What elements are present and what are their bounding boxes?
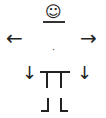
arrow-down-left-icon: ↓ <box>22 64 37 82</box>
table-leg-right <box>60 71 62 88</box>
smiley-face-icon: ☺ <box>45 4 62 20</box>
arrow-left-icon: ← <box>6 28 23 48</box>
arrow-right-icon: → <box>80 28 97 48</box>
table-top <box>40 71 70 73</box>
foot-left-icon <box>41 98 49 112</box>
arrow-down-right-icon: ↓ <box>77 64 92 82</box>
center-dot: · <box>52 46 55 55</box>
head-underline <box>43 21 65 23</box>
table-shape-icon <box>40 71 70 88</box>
table-leg-left <box>46 71 48 88</box>
foot-right-icon <box>60 98 68 112</box>
